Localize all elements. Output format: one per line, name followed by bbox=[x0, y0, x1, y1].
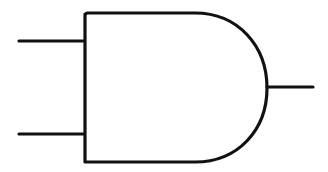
and-gate-diagram: AND bbox=[0, 0, 328, 172]
gate-type-label: AND bbox=[150, 80, 172, 91]
and-gate-body bbox=[85, 13, 267, 162]
